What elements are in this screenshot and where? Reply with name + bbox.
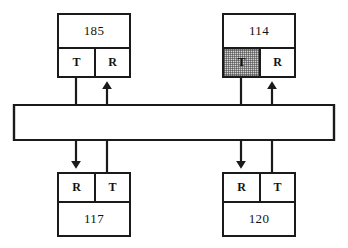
node-117-ports: R T xyxy=(59,174,129,203)
edge-114T-to-120R xyxy=(14,78,241,164)
node-185-port-t[interactable]: T xyxy=(59,49,94,76)
node-117[interactable]: R T 117 xyxy=(57,172,131,237)
node-120[interactable]: R T 120 xyxy=(222,172,296,237)
node-185-value: 185 xyxy=(59,15,129,47)
edge-185T-to-117R xyxy=(14,78,76,164)
node-120-port-t[interactable]: T xyxy=(259,174,294,201)
node-185-port-r[interactable]: R xyxy=(94,49,129,76)
diagram-canvas: 185 T R 114 T R R T 117 R T 120 xyxy=(0,0,348,248)
node-120-port-r[interactable]: R xyxy=(224,174,259,201)
node-185-ports: T R xyxy=(59,47,129,76)
node-114-port-r[interactable]: R xyxy=(259,49,294,76)
node-114-ports: T R xyxy=(224,47,294,76)
node-114-value: 114 xyxy=(224,15,294,47)
node-120-ports: R T xyxy=(224,174,294,203)
edge-117T-to-185R xyxy=(107,86,334,172)
node-114-port-t[interactable]: T xyxy=(224,49,259,76)
node-114[interactable]: 114 T R xyxy=(222,13,296,78)
edge-120T-to-114R xyxy=(272,86,334,172)
node-117-value: 117 xyxy=(59,203,129,235)
node-120-value: 120 xyxy=(224,203,294,235)
node-117-port-t[interactable]: T xyxy=(94,174,129,201)
node-117-port-r[interactable]: R xyxy=(59,174,94,201)
node-185[interactable]: 185 T R xyxy=(57,13,131,78)
